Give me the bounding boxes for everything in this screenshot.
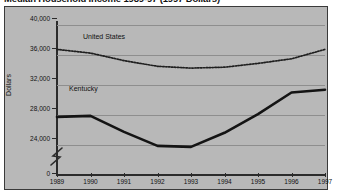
- x-tick-label-1990: 1990: [76, 178, 106, 186]
- x-tick-mark-1991: [124, 173, 125, 177]
- x-tick-label-1989: 1989: [42, 178, 72, 186]
- x-tick-label-1996: 1996: [277, 178, 307, 186]
- x-tick-mark-1997: [325, 173, 326, 177]
- x-tick-mark-1989: [57, 173, 58, 177]
- x-tick-label-1994: 1994: [210, 178, 240, 186]
- x-tick-mark-1992: [158, 173, 159, 177]
- x-tick-label-1991: 1991: [109, 178, 139, 186]
- chart-title: Median Household Income 1989-97 (1997 Do…: [4, 0, 328, 4]
- chart-panel: 40,000 36,000 32,000 28,000 24,000 0 Dol…: [4, 6, 328, 190]
- x-tick-label-1992: 1992: [143, 178, 173, 186]
- x-tick-mark-1996: [292, 173, 293, 177]
- x-tick-mark-1993: [191, 173, 192, 177]
- series-label-kentucky: Kentucky: [69, 85, 98, 93]
- series-line-united-states: [57, 49, 325, 68]
- series-line-kentucky: [57, 90, 325, 147]
- series-label-united-states: United States: [83, 33, 125, 41]
- x-tick-label-1997: 1997: [310, 178, 337, 186]
- x-tick-mark-1995: [258, 173, 259, 177]
- x-tick-mark-1990: [91, 173, 92, 177]
- series-lines: [5, 7, 329, 191]
- x-tick-mark-1994: [225, 173, 226, 177]
- x-tick-label-1995: 1995: [243, 178, 273, 186]
- x-tick-label-1993: 1993: [176, 178, 206, 186]
